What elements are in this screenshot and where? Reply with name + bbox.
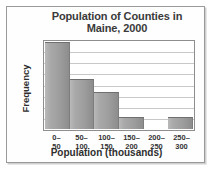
chart-figure-card: Population of Counties in Maine, 2000 Fr…	[6, 6, 205, 163]
bar-value-0: 7	[55, 40, 60, 42]
chart-title-line-1: Population of Counties in	[33, 11, 201, 23]
x-tick-4-top: 200–	[144, 133, 169, 142]
x-tick-3-top: 150–	[119, 133, 144, 142]
x-tick-5-top: 250–	[169, 133, 194, 142]
bar-slot-0: 7	[45, 42, 70, 129]
bar-value-4: 0	[154, 40, 159, 42]
x-axis-title: Population (thousands)	[7, 147, 206, 158]
bar-slot-3: 1	[119, 42, 144, 129]
chart-title: Population of Counties in Maine, 2000	[33, 11, 201, 34]
bar-2	[94, 92, 119, 129]
chart-title-line-2: Maine, 2000	[33, 23, 201, 35]
bar-value-3: 1	[129, 40, 134, 42]
bar-1	[70, 79, 95, 129]
y-axis-title: Frequency	[20, 51, 31, 127]
bar-value-2: 3	[104, 40, 109, 42]
x-tick-1-top: 50–	[69, 133, 94, 142]
bar-value-1: 4	[79, 40, 84, 42]
bar-slot-5: 1	[168, 42, 193, 129]
x-tick-2-top: 100–	[94, 133, 119, 142]
bar-0	[45, 42, 70, 129]
x-tick-0-top: 0–	[44, 133, 69, 142]
bar-value-5: 1	[178, 40, 183, 42]
bar-5	[168, 117, 193, 129]
bar-slot-4: 0	[144, 42, 169, 129]
plot-area: 7 4 3 1 0	[43, 40, 195, 131]
bar-series: 7 4 3 1 0	[45, 42, 193, 129]
bar-slot-1: 4	[70, 42, 95, 129]
plot-wrapper: 7 4 3 1 0	[43, 40, 195, 131]
bar-slot-2: 3	[94, 42, 119, 129]
bar-3	[119, 117, 144, 129]
